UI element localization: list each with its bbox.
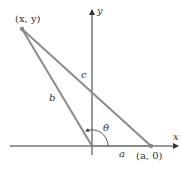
- point-xy-label: (x, y): [15, 13, 41, 24]
- side-a-label: a: [119, 148, 125, 159]
- side-b: [22, 29, 92, 146]
- x-axis-label: x: [173, 131, 179, 142]
- y-axis-label: y: [96, 5, 103, 16]
- side-c: [22, 29, 151, 146]
- point-a0-label: (a, 0): [136, 150, 163, 161]
- side-c-label: c: [81, 69, 87, 80]
- side-b-label: b: [49, 92, 55, 103]
- point-xy: [20, 27, 24, 31]
- point-a0: [149, 144, 153, 148]
- diagram-canvas: y x (x, y) (a, 0) c b a θ: [0, 0, 181, 170]
- theta-label: θ: [103, 122, 109, 133]
